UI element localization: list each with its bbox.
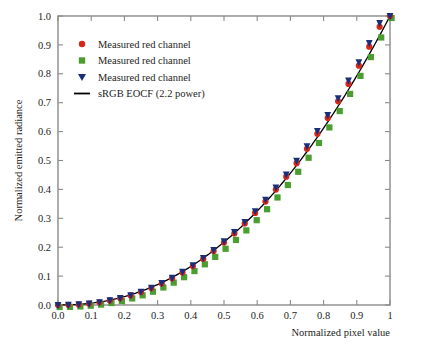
series-1-point-28 [347, 91, 353, 97]
y-tick-label-8: 0.8 [38, 68, 51, 79]
series-1-point-27 [337, 108, 343, 114]
y-tick-label-10: 1.0 [38, 11, 51, 22]
x-tick-label-5: 0.5 [217, 310, 230, 321]
x-tick-label-2: 0.2 [118, 310, 131, 321]
series-1-point-17 [233, 237, 239, 243]
legend-square-swatch-1 [79, 57, 85, 63]
y-axis-title: Normalized emitted radiance [13, 99, 24, 221]
x-tick-label-7: 0.7 [284, 310, 297, 321]
x-tick-label-8: 0.8 [317, 310, 330, 321]
legend-label-1: Measured red channel [98, 55, 191, 66]
x-tick-label-0: 0.0 [51, 310, 64, 321]
y-tick-label-7: 0.7 [38, 97, 51, 108]
x-tick-label-3: 0.3 [151, 310, 164, 321]
series-1-point-26 [326, 124, 332, 130]
y-tick-label-0: 0.0 [38, 300, 51, 311]
x-tick-label-4: 0.4 [184, 310, 198, 321]
legend-label-3: sRGB EOCF (2.2 power) [98, 88, 205, 100]
legend-label-2: Measured red channel [98, 72, 191, 83]
chart-figure: 0.00.10.20.30.40.50.60.70.80.91 0.00.10.… [0, 0, 426, 345]
legend-circle-swatch-0 [79, 41, 85, 47]
x-tick-label-6: 0.6 [251, 310, 264, 321]
y-tick-label-9: 0.9 [38, 40, 51, 51]
x-tick-label-10: 1 [387, 310, 392, 321]
y-tick-label-1: 0.1 [38, 271, 51, 282]
x-axis-title: Normalized pixel value [291, 327, 390, 338]
x-tick-label-9: 0.9 [350, 310, 363, 321]
series-1-point-15 [212, 254, 218, 260]
radiance-transfer-chart: 0.00.10.20.30.40.50.60.70.80.91 0.00.10.… [0, 0, 426, 345]
series-1-point-22 [285, 182, 291, 188]
y-tick-label-5: 0.5 [38, 155, 51, 166]
legend-label-0: Measured red channel [98, 39, 191, 50]
series-1-point-14 [202, 261, 208, 267]
series-1-point-25 [316, 140, 322, 146]
series-1-point-23 [295, 169, 301, 175]
y-tick-label-4: 0.4 [38, 184, 52, 195]
series-1-point-19 [254, 217, 260, 223]
x-tick-label-1: 0.1 [85, 310, 98, 321]
y-tick-label-3: 0.3 [38, 213, 51, 224]
y-tick-label-6: 0.6 [38, 126, 51, 137]
chart-background [0, 0, 426, 345]
series-1-point-21 [274, 194, 280, 200]
y-tick-label-2: 0.2 [38, 242, 51, 253]
series-1-point-24 [306, 155, 312, 161]
series-1-point-30 [368, 54, 374, 60]
series-1-point-18 [243, 227, 249, 233]
series-1-point-31 [378, 34, 384, 40]
series-1-point-29 [357, 73, 363, 79]
series-1-point-16 [223, 246, 229, 252]
series-1-point-20 [264, 206, 270, 212]
